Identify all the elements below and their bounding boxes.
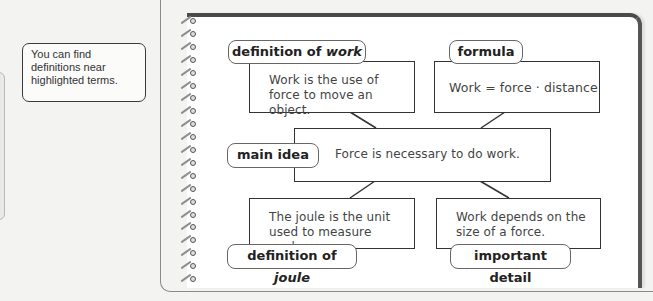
formula-text: Work = force · distance	[449, 80, 598, 95]
formula-box: Work = force · distance	[434, 61, 600, 113]
definition-work-box: Work is the use of force to move an obje…	[249, 61, 415, 113]
spiral-ring-icon	[178, 55, 198, 65]
main-idea-label-text: main idea	[237, 147, 309, 162]
spiral-ring-icon	[178, 171, 198, 181]
spiral-ring-icon	[178, 235, 198, 245]
spiral-ring-icon	[178, 158, 198, 168]
spiral-ring-icon	[178, 197, 198, 207]
definition-joule-label-term: joule	[274, 270, 310, 285]
tip-callout-text: You can find definitions near highlighte…	[31, 48, 118, 86]
main-idea-label: main idea	[227, 143, 319, 168]
definition-work-text: Work is the use of force to move an obje…	[269, 73, 379, 117]
spiral-ring-icon	[178, 248, 198, 258]
spiral-ring-icon	[178, 210, 198, 220]
spiral-ring-icon	[178, 119, 198, 129]
main-idea-text: Force is necessary to do work.	[335, 147, 520, 161]
definition-joule-box: The joule is the unit used to measure wo…	[249, 198, 415, 249]
left-side-panel	[0, 72, 5, 220]
important-detail-text: Work depends on the size of a force.	[456, 210, 586, 239]
formula-label: formula	[449, 40, 523, 64]
spiral-ring-icon	[178, 68, 198, 78]
main-idea-box: Force is necessary to do work.	[294, 128, 551, 182]
spiral-ring-icon	[178, 184, 198, 194]
formula-label-text: formula	[457, 44, 514, 59]
spiral-ring-icon	[178, 42, 198, 52]
notebook-spiral-binding	[178, 16, 198, 286]
spiral-ring-icon	[178, 93, 198, 103]
important-detail-box: Work depends on the size of a force.	[436, 198, 601, 249]
tip-callout: You can find definitions near highlighte…	[22, 43, 146, 102]
spiral-ring-icon	[178, 106, 198, 116]
definition-work-label: definition of work	[228, 40, 366, 64]
definition-joule-label: definition of joule	[227, 244, 357, 269]
definition-joule-label-prefix: definition of	[247, 248, 336, 263]
spiral-ring-icon	[178, 222, 198, 232]
spiral-ring-icon	[178, 274, 198, 284]
definition-work-label-prefix: definition of	[232, 44, 326, 59]
spiral-ring-icon	[178, 132, 198, 142]
spiral-ring-icon	[178, 81, 198, 91]
important-detail-label: important detail	[450, 244, 571, 269]
definition-work-label-term: work	[326, 44, 362, 59]
spiral-ring-icon	[178, 261, 198, 271]
spiral-ring-icon	[178, 145, 198, 155]
spiral-ring-icon	[178, 29, 198, 39]
spiral-ring-icon	[178, 16, 198, 26]
